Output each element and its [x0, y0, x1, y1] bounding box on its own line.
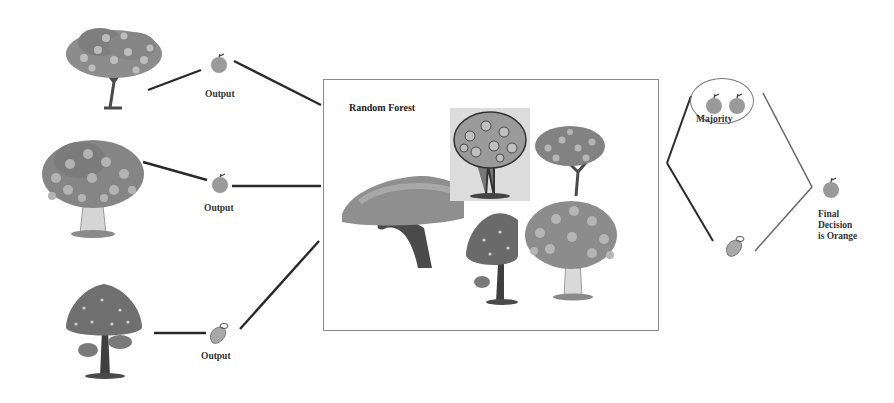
forest-tree-wide-icon [340, 172, 464, 272]
output-label-2: Output [204, 203, 234, 213]
connector-line [667, 163, 713, 241]
random-forest-title: Random Forest [349, 102, 415, 113]
random-forest-diagram: Output Output Output Random Forest [0, 0, 894, 403]
final-decision-line-2: Decision [818, 220, 878, 231]
forest-tree-outlined-icon [450, 108, 530, 201]
orange-fruit-icon [726, 92, 748, 116]
connector-line [755, 187, 812, 251]
connector-line [234, 61, 321, 105]
orange-fruit-icon [703, 92, 725, 116]
output-label-1: Output [205, 89, 235, 99]
final-decision-line-1: Final [818, 209, 878, 220]
orange-fruit-icon [208, 52, 230, 74]
connector-line [143, 162, 207, 180]
majority-label: Majority [696, 114, 732, 124]
final-decision-line-3: is Orange [818, 231, 878, 242]
connector-line [763, 93, 812, 187]
decision-tree-3-icon [62, 280, 146, 380]
connector-line [240, 241, 319, 329]
forest-tree-small-icon [534, 122, 606, 198]
mango-fruit-icon [722, 235, 748, 259]
random-forest-box: Random Forest [323, 79, 659, 331]
output-label-3: Output [201, 351, 231, 361]
orange-fruit-icon [820, 176, 842, 200]
orange-fruit-icon [209, 172, 231, 194]
connector-line [667, 96, 691, 163]
decision-tree-2-icon [40, 134, 146, 238]
decision-tree-1-icon [62, 22, 166, 110]
mango-fruit-icon [206, 322, 232, 346]
forest-tree-dark-icon [464, 210, 520, 306]
final-decision-label: Final Decision is Orange [818, 209, 878, 242]
forest-tree-large-icon [524, 195, 618, 301]
